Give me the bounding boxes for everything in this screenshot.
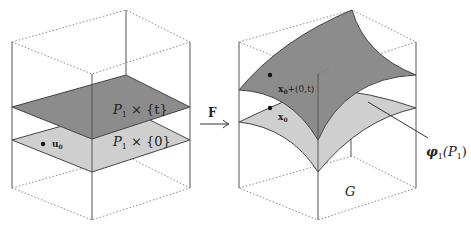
mapping-arrow: F	[200, 106, 229, 128]
left-box-top-outline	[12, 10, 190, 74]
right-panel: x0+(0,t) x0 φ1(P1) G	[239, 10, 467, 220]
point-u0	[41, 142, 45, 146]
right-box-bottom-outline	[239, 156, 416, 220]
surface-label: φ1(P1)	[426, 144, 467, 161]
figure-canvas: P1 × {t} P1 × {0} u0 F	[0, 0, 471, 226]
lower-plane-label: P1 × {0}	[112, 134, 171, 151]
left-panel: P1 × {t} P1 × {0} u0	[12, 10, 190, 220]
point-x0	[268, 106, 272, 110]
base-label-G: G	[345, 184, 355, 199]
arrow-label: F	[208, 106, 217, 120]
point-x0-plus-t	[268, 73, 272, 77]
upper-plane-label: P1 × {t}	[112, 102, 168, 119]
